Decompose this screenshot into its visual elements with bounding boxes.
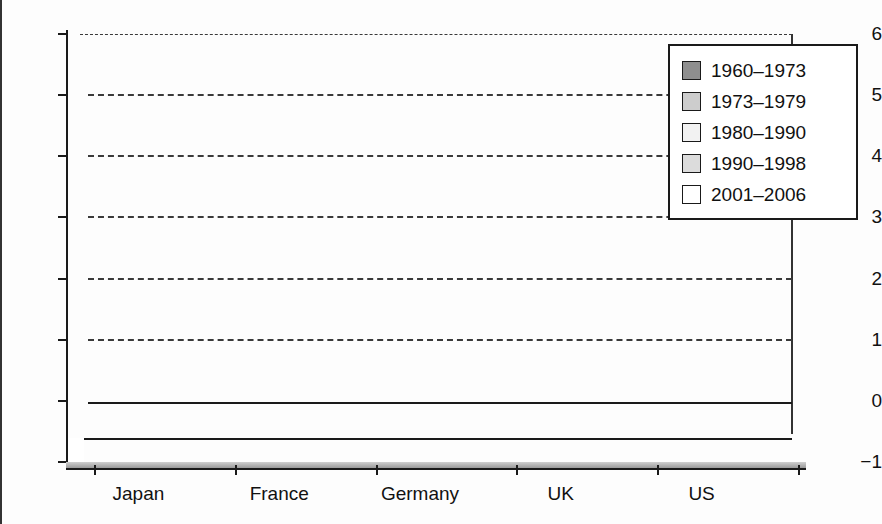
y-axis-tick-label: −1 xyxy=(856,452,882,471)
legend-item-label: 2001–2006 xyxy=(711,185,806,204)
plot-floor-slab xyxy=(66,462,806,470)
plot-frame-left-inner xyxy=(0,404,2,524)
legend-item[interactable]: 2001–2006 xyxy=(682,179,846,210)
plot-floor-left-face xyxy=(66,438,84,464)
plot-floor-back-edge xyxy=(80,438,792,440)
legend-swatch-icon xyxy=(682,92,701,111)
legend-item-label: 1960–1973 xyxy=(711,61,806,80)
x-axis-tick xyxy=(798,465,800,475)
y-axis-tick-label: 6 xyxy=(856,24,882,43)
y-axis-tick-label: 4 xyxy=(856,146,882,165)
y-axis-tick xyxy=(58,94,68,96)
legend-item-label: 1980–1990 xyxy=(711,123,806,142)
legend-item[interactable]: 1973–1979 xyxy=(682,86,846,117)
legend-swatch-icon xyxy=(682,185,701,204)
x-axis-tick xyxy=(657,465,659,475)
gridline xyxy=(88,339,792,341)
y-axis-tick-label: 1 xyxy=(856,330,882,349)
x-axis-label-us: US xyxy=(631,484,772,504)
y-axis-tick xyxy=(58,278,68,280)
y-axis-tick xyxy=(58,400,68,402)
y-axis-tick-label: 0 xyxy=(856,391,882,410)
y-axis-tick xyxy=(58,216,68,218)
legend-swatch-icon xyxy=(682,123,701,142)
legend-swatch-icon xyxy=(682,154,701,173)
bar-chart: −10123456 JapanFranceGermanyUKUS 1960–19… xyxy=(0,0,882,524)
x-axis-tick xyxy=(235,465,237,475)
x-axis-tick xyxy=(516,465,518,475)
zero-baseline xyxy=(88,402,792,404)
x-axis-tick xyxy=(376,465,378,475)
legend-item-label: 1990–1998 xyxy=(711,154,806,173)
gridline-top xyxy=(80,34,792,35)
x-axis-tick xyxy=(94,465,96,475)
legend-item[interactable]: 1980–1990 xyxy=(682,117,846,148)
legend-swatch-icon xyxy=(682,61,701,80)
gridline xyxy=(88,278,792,280)
chart-legend: 1960–19731973–19791980–19901990–19982001… xyxy=(668,44,858,220)
legend-item[interactable]: 1960–1973 xyxy=(682,55,846,86)
x-axis-label-uk: UK xyxy=(490,484,631,504)
x-axis-label-japan: Japan xyxy=(68,484,209,504)
legend-item-label: 1973–1979 xyxy=(711,92,806,111)
x-axis-label-france: France xyxy=(209,484,350,504)
y-axis-tick xyxy=(58,339,68,341)
y-axis-tick-label: 5 xyxy=(856,85,882,104)
y-axis-tick xyxy=(58,155,68,157)
y-axis-tick-label: 3 xyxy=(856,207,882,226)
y-axis-tick xyxy=(58,33,68,35)
y-axis-tick-label: 2 xyxy=(856,269,882,288)
legend-item[interactable]: 1990–1998 xyxy=(682,148,846,179)
x-axis-label-germany: Germany xyxy=(350,484,491,504)
plot-frame-left-outer xyxy=(0,0,2,404)
